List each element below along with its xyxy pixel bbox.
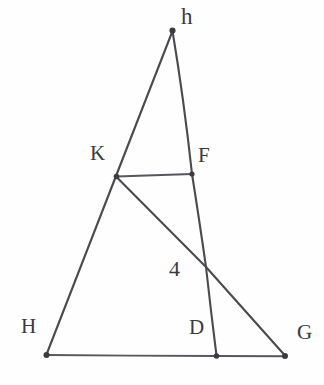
point-label-G: G [297, 322, 312, 343]
vertex-dot-G [282, 353, 288, 359]
point-label-4: 4 [169, 258, 180, 280]
geometry-figure: h K F 4 H D G [0, 0, 324, 385]
segment-h-D [173, 31, 217, 356]
point-label-F: F [198, 145, 210, 166]
vertex-dot-K [114, 174, 120, 180]
segment-K-F [117, 174, 193, 177]
vertex-dot-D [214, 353, 220, 359]
segment-H-G [47, 355, 286, 356]
point-label-H: H [21, 316, 36, 337]
vertex-dot-h [169, 27, 175, 33]
segment-h-H [47, 31, 173, 355]
point-label-K: K [90, 143, 105, 164]
figure-canvas [0, 0, 324, 385]
vertex-dot-H [44, 352, 50, 358]
point-label-D: D [189, 317, 204, 338]
vertex-dot-F [189, 171, 194, 176]
point-label-h: h [181, 5, 193, 28]
